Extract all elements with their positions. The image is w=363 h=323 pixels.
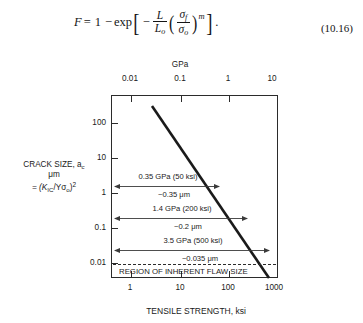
left-tick-label-4: 0.01 xyxy=(70,258,106,267)
y-axis-title-line3-exponent: 2 xyxy=(72,181,76,188)
left-tick-label-0: 100 xyxy=(78,118,106,127)
equation-fraction-sigma-f-over-sigma-0: σf σo xyxy=(177,8,191,38)
equation-frac2-num-sub: f xyxy=(185,13,187,22)
annotation-label-2-bottom: ~0.035 μm xyxy=(182,254,218,263)
left-tick-mark-3 xyxy=(112,228,118,229)
equation-paren-close: ) xyxy=(192,14,197,33)
equation-frac1-denominator: Lo xyxy=(153,22,167,36)
equation-frac2-denominator: σo xyxy=(177,23,191,37)
equation-frac2-den-sub: o xyxy=(184,28,188,37)
left-tick-label-3: 0.1 xyxy=(74,223,106,232)
y-axis-title-line1: CRACK SIZE, ac xyxy=(23,160,84,169)
top-tick-mark-1 xyxy=(181,96,182,102)
annotation-label-0-bottom: ~0.35 μm xyxy=(158,190,190,199)
annotation-label-1-bottom: ~0.2 μm xyxy=(174,222,202,231)
equation-frac1-numerator: L xyxy=(153,9,167,22)
equation-number: (10.16) xyxy=(321,22,353,34)
top-tick-mark-0 xyxy=(131,96,132,102)
equation-exponent-m: m xyxy=(199,11,205,21)
equation-one: 1 xyxy=(93,15,103,29)
equation-equals: = xyxy=(82,15,93,29)
equation-lhs: F xyxy=(74,15,82,29)
annotation-arrow-0 xyxy=(114,183,220,190)
y-axis-title-line1-sub: c xyxy=(82,163,85,170)
y-axis-title-line3-mid: /Yσ xyxy=(53,183,66,192)
y-axis-title-line1-text: CRACK SIZE, a xyxy=(23,160,81,169)
y-axis-title-line2: μm xyxy=(4,170,104,180)
annotation-arrow-1 xyxy=(114,215,248,222)
bottom-tick-label-3: 1000 xyxy=(265,283,283,292)
top-axis-title-gpa: GPa xyxy=(172,60,188,69)
equation-frac2-numerator: σf xyxy=(177,8,191,23)
equation-paren-open: ( xyxy=(169,14,174,33)
bottom-tick-label-2: 100 xyxy=(221,283,235,292)
y-axis-title-line3: = (KIC/Yσo)2 xyxy=(4,181,104,194)
equation-negative-sign: − xyxy=(141,15,152,29)
region-label: REGION OF INHERENT FLAW SIZE xyxy=(119,267,248,276)
top-tick-label-3: 10 xyxy=(267,74,276,83)
equation-expression: F=1−exp[− L Lo ( σf σo )m]. xyxy=(74,8,220,38)
equation-minus: − xyxy=(103,15,114,29)
plot-area: 0.35 GPa (50 ksi) ~0.35 μm 1.4 GPa (200 … xyxy=(111,95,278,278)
top-tick-mark-2 xyxy=(229,96,230,102)
annotation-label-0-top: 0.35 GPa (50 ksi) xyxy=(138,172,197,181)
annotation-label-1-top: 1.4 GPa (200 ksi) xyxy=(152,204,211,213)
equation-fraction-L-over-L0: L Lo xyxy=(153,9,167,36)
y-axis-title-line3-prefix: = (K xyxy=(32,183,47,192)
figure-crack-size-vs-tensile-strength: GPa 0.01 0.1 1 10 100 10 1 0.1 0.01 CRAC… xyxy=(0,56,363,323)
left-tick-mark-1 xyxy=(112,158,118,159)
bottom-tick-label-1: 10 xyxy=(175,283,184,292)
top-tick-label-2: 1 xyxy=(226,74,231,83)
equation-block: F=1−exp[− L Lo ( σf σo )m]. (10.16) xyxy=(0,0,363,56)
equation-frac1-den-sub: o xyxy=(161,27,165,36)
bottom-tick-label-0: 1 xyxy=(128,283,133,292)
top-tick-label-0: 0.01 xyxy=(122,74,138,83)
x-axis-title: TENSILE STRENGTH, ksi xyxy=(146,306,246,316)
equation-period: . xyxy=(213,15,220,29)
annotation-arrow-2 xyxy=(114,247,270,254)
bottom-tick-mark-3 xyxy=(277,271,278,277)
left-tick-mark-0 xyxy=(112,123,118,124)
y-axis-title: CRACK SIZE, ac μm = (KIC/Yσo)2 xyxy=(4,160,104,193)
top-tick-label-1: 0.1 xyxy=(174,74,185,83)
annotation-label-2-top: 3.5 GPa (500 ksi) xyxy=(163,236,222,245)
equation-bracket-close: ] xyxy=(206,12,212,33)
left-tick-mark-2 xyxy=(112,193,118,194)
equation-bracket-open: [ xyxy=(133,12,139,33)
equation-exp-fn: exp xyxy=(114,15,132,29)
region-boundary-dashed-line xyxy=(113,264,276,265)
